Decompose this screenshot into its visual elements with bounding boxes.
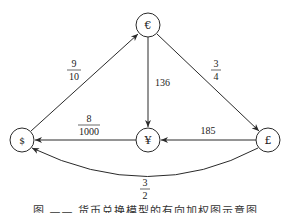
weight-jpy-usd-numerator: 8 bbox=[87, 113, 92, 124]
node-pound-label: £ bbox=[265, 134, 272, 147]
figure-caption: 图 —— 货币兑换模型的有向加权图示意图 bbox=[0, 202, 291, 213]
node-yen: ¥ bbox=[136, 128, 160, 152]
node-dollar-label: $ bbox=[19, 136, 25, 146]
node-yen-label: ¥ bbox=[144, 134, 153, 147]
weight-eur-gbp-denominator: 4 bbox=[214, 71, 219, 82]
weight-gbp-jpy: 185 bbox=[201, 125, 216, 136]
currency-exchange-graph: € $ ¥ £ 9 10 136 3 4 8 1000 185 3 2 bbox=[0, 0, 291, 213]
weight-gbp-usd-denominator: 2 bbox=[143, 190, 148, 201]
weight-gbp-usd-numerator: 3 bbox=[143, 177, 148, 188]
weight-usd-eur: 9 10 bbox=[67, 58, 81, 82]
edge-usd-to-eur bbox=[31, 34, 138, 131]
edge-eur-to-gbp bbox=[157, 34, 259, 131]
weight-usd-eur-denominator: 10 bbox=[69, 71, 79, 82]
node-dollar: $ bbox=[10, 128, 34, 152]
weight-gbp-usd: 3 2 bbox=[140, 177, 150, 201]
node-euro-label: € bbox=[144, 19, 152, 32]
weight-eur-jpy: 136 bbox=[155, 77, 170, 88]
weight-eur-gbp: 3 4 bbox=[211, 58, 221, 82]
weight-jpy-usd-denominator: 1000 bbox=[79, 126, 99, 137]
edge-gbp-to-usd bbox=[32, 148, 258, 177]
weight-jpy-usd: 8 1000 bbox=[78, 113, 100, 137]
weight-eur-gbp-numerator: 3 bbox=[214, 58, 219, 69]
weight-usd-eur-numerator: 9 bbox=[72, 58, 77, 69]
node-pound: £ bbox=[256, 128, 280, 152]
node-euro: € bbox=[136, 13, 160, 37]
